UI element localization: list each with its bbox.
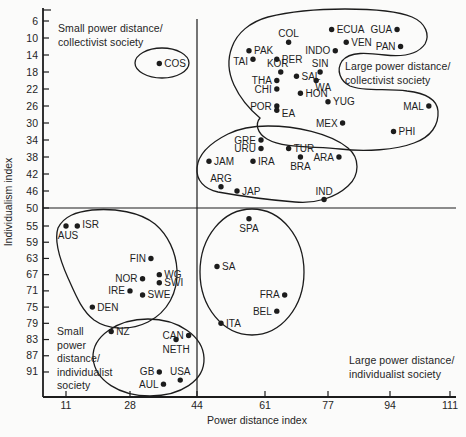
y-tick-label: 55: [26, 220, 38, 232]
y-tick-label: 71: [26, 284, 38, 296]
y-tick-label: 10: [26, 32, 38, 44]
y-tick-label: 30: [26, 117, 38, 129]
data-point-dot-usa: [178, 377, 183, 382]
y-tick-label: 50: [26, 202, 38, 214]
data-point-dot-col: [286, 40, 291, 45]
data-point-dot-jam: [206, 159, 211, 164]
data-point-label-uru: URU: [234, 143, 256, 154]
data-point-label-mex: MEX: [316, 118, 338, 129]
data-point-label-phi: PHI: [399, 126, 416, 137]
data-point-dot-mal: [426, 103, 431, 108]
data-point-dot-chi: [274, 86, 279, 91]
data-point-dot-ecua: [329, 27, 334, 32]
data-point-dot-uru: [258, 146, 263, 151]
data-point-dot-fin: [148, 256, 153, 261]
data-point-label-nz: NZ: [116, 326, 129, 337]
data-point-label-yug: YUG: [333, 96, 355, 107]
data-point-label-gua: GUA: [370, 24, 392, 35]
data-point-dot-ven: [344, 40, 349, 45]
data-point-dot-aul: [161, 381, 166, 386]
data-point-label-aus: AUS: [58, 230, 79, 241]
data-point-dot-tur: [286, 146, 291, 151]
data-point-dot-aus: [63, 223, 68, 228]
data-point-label-ire: IRE: [108, 285, 125, 296]
data-point-dot-spa: [246, 216, 251, 221]
data-point-dot-arg: [218, 184, 223, 189]
data-point-label-sin: SIN: [312, 58, 329, 69]
data-point-dot-neth: [173, 337, 178, 342]
quadrant-label-top-right: Large power distance/collectivist societ…: [345, 60, 450, 87]
data-point-dot-ea: [274, 108, 279, 113]
data-point-label-sa: SA: [222, 261, 236, 272]
y-tick-label: 79: [26, 317, 38, 329]
data-point-label-ven: VEN: [351, 37, 372, 48]
data-point-label-bel: BEL: [253, 306, 272, 317]
data-point-label-tai: TAI: [233, 56, 248, 67]
data-point-label-swe: SWE: [148, 289, 171, 300]
quadrant-label-bottom-left-line: society: [57, 379, 90, 391]
data-point-label-can: CAN: [163, 330, 184, 341]
data-point-dot-pak: [246, 48, 251, 53]
data-point-dot-ita: [218, 321, 223, 326]
x-tick-label: 111: [442, 399, 458, 411]
data-point-dot-isr: [75, 223, 80, 228]
data-point-dot-swi: [157, 280, 162, 285]
y-tick-label: 83: [26, 333, 38, 345]
data-point-label-ira: IRA: [258, 156, 275, 167]
data-point-label-spa: SPA: [239, 223, 259, 234]
quadrant-label-top-left: Small power distance/collectivist societ…: [58, 22, 163, 49]
data-point-label-ita: ITA: [226, 318, 241, 329]
data-point-label-tur: TUR: [294, 143, 315, 154]
data-point-dot-tai: [250, 57, 255, 62]
data-point-dot-pan: [398, 44, 403, 49]
data-point-label-fin: FIN: [130, 253, 146, 264]
data-point-dot-phi: [391, 129, 396, 134]
data-point-dot-sal: [294, 74, 299, 79]
quadrant-label-bottom-right-line: Large power distance/: [349, 354, 454, 366]
data-point-label-gb: GB: [140, 366, 155, 377]
x-tick-label: 61: [259, 399, 271, 411]
data-point-dot-can: [186, 333, 191, 338]
x-tick-label: 77: [322, 399, 334, 411]
data-point-dot-swe: [140, 292, 145, 297]
data-point-label-ea: EA: [282, 108, 296, 119]
quadrant-label-bottom-left-line: individualist: [57, 366, 113, 378]
data-point-dot-nor: [140, 276, 145, 281]
data-point-dot-den: [90, 304, 95, 309]
quadrant-label-top-right-line: Large power distance/: [345, 60, 450, 72]
data-point-dot-wg: [157, 272, 162, 277]
y-axis-title: Individualism index: [2, 122, 14, 282]
data-point-label-mal: MAL: [403, 101, 424, 112]
y-tick-label: 6: [32, 15, 38, 27]
y-tick-label: 18: [26, 66, 38, 78]
y-tick-label: 59: [26, 236, 38, 248]
x-tick-label: 28: [124, 399, 136, 411]
y-tick-label: 26: [26, 100, 38, 112]
data-point-label-ara: ARA: [313, 152, 334, 163]
data-point-dot-fra: [282, 292, 287, 297]
hofstede-scatter-figure: 1128446177941116101418222630343842465055…: [0, 0, 466, 437]
data-point-dot-indo: [333, 48, 338, 53]
data-point-dot-cos: [157, 61, 162, 66]
data-point-label-ind: IND: [315, 186, 332, 197]
quadrant-label-bottom-left-line: distance/: [57, 352, 100, 364]
data-point-dot-gua: [394, 27, 399, 32]
data-point-label-hon: HON: [305, 88, 327, 99]
x-tick-label: 94: [384, 399, 396, 411]
data-point-label-ecua: ECUA: [337, 24, 365, 35]
data-point-dot-yug: [325, 99, 330, 104]
quadrant-label-top-left-line: collectivist society: [58, 36, 143, 48]
data-point-label-indo: INDO: [305, 45, 330, 56]
data-point-label-swi: SWI: [164, 277, 183, 288]
y-tick-label: 63: [26, 252, 38, 264]
quadrant-label-bottom-right: Large power distance/individualist socie…: [349, 354, 454, 381]
data-point-label-arg: ARG: [210, 173, 232, 184]
quadrant-label-bottom-left-line: Small: [57, 325, 84, 337]
data-point-label-aul: AUL: [139, 379, 159, 390]
quadrant-label-bottom-left-line: power: [57, 339, 86, 351]
y-tick-label: 67: [26, 268, 38, 280]
data-point-label-usa: USA: [170, 366, 191, 377]
x-axis-title: Power distance index: [157, 414, 357, 426]
data-point-label-isr: ISR: [82, 219, 99, 230]
y-tick-label: 42: [26, 168, 38, 180]
